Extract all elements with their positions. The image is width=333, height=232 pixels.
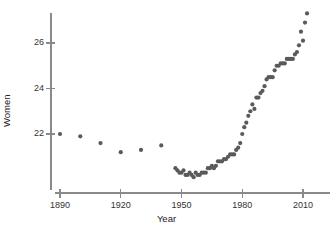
data-point <box>192 175 196 179</box>
y-tick-label: 26 <box>16 38 44 47</box>
data-point <box>238 141 242 145</box>
x-tick-label: 1980 <box>220 201 264 210</box>
data-point <box>303 20 307 24</box>
data-point <box>159 143 163 147</box>
data-point <box>260 89 264 93</box>
y-axis-title: Women <box>2 88 12 134</box>
data-points <box>58 11 309 179</box>
x-tick-label: 1920 <box>99 201 143 210</box>
data-point <box>78 134 82 138</box>
data-point <box>252 107 256 111</box>
x-tick-label: 2010 <box>281 201 325 210</box>
plot-area <box>0 0 333 232</box>
data-point <box>248 109 252 113</box>
y-tick-label: 24 <box>16 84 44 93</box>
axes <box>51 13 330 193</box>
data-point <box>119 150 123 154</box>
data-point <box>236 146 240 150</box>
data-point <box>291 57 295 61</box>
data-point <box>244 121 248 125</box>
x-tick-label: 1950 <box>160 201 204 210</box>
data-point <box>283 61 287 65</box>
data-point <box>214 164 218 168</box>
data-point <box>299 30 303 34</box>
data-point <box>204 171 208 175</box>
data-point <box>181 168 185 172</box>
data-point <box>262 84 266 88</box>
data-point <box>232 152 236 156</box>
data-point <box>301 39 305 43</box>
x-axis-title: Year <box>0 214 333 224</box>
data-point <box>295 50 299 54</box>
data-point <box>240 132 244 136</box>
data-point <box>98 141 102 145</box>
data-point <box>58 132 62 136</box>
scatter-chart: 222426 18901920195019802010 Women Year <box>0 0 333 232</box>
data-point <box>297 43 301 47</box>
data-point <box>139 148 143 152</box>
data-point <box>271 75 275 79</box>
data-point <box>256 96 260 100</box>
data-point <box>242 125 246 129</box>
data-point <box>250 102 254 106</box>
x-tick-label: 1890 <box>38 201 82 210</box>
data-point <box>273 68 277 72</box>
y-tick-label: 22 <box>16 129 44 138</box>
data-point <box>246 114 250 118</box>
data-point <box>305 11 309 15</box>
